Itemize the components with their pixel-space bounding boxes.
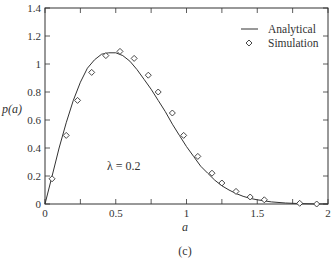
simulation-markers (49, 48, 320, 207)
simulation-point (314, 201, 320, 207)
simulation-point (89, 69, 95, 75)
legend-label-analytical: Analytical (268, 23, 316, 36)
simulation-point (145, 72, 151, 78)
x-tick-label: 1 (184, 207, 190, 219)
analytical-curve (45, 53, 328, 204)
lambda-annotation: λ = 0.2 (107, 159, 141, 173)
simulation-point (261, 197, 267, 203)
legend: Analytical Simulation (241, 23, 319, 49)
simulation-point (155, 89, 161, 95)
legend-label-simulation: Simulation (268, 37, 319, 49)
simulation-point (49, 176, 55, 182)
y-axis-label: p(a) (1, 102, 22, 116)
y-tick-label: 0.6 (27, 114, 41, 126)
simulation-point (169, 110, 175, 116)
x-tick-label: 0 (42, 207, 48, 219)
x-tick-label: 1.5 (250, 207, 264, 219)
simulation-point (297, 200, 303, 206)
x-tick-label: 2 (325, 207, 331, 219)
simulation-point (75, 97, 81, 103)
y-tick-label: 0 (36, 198, 42, 210)
simulation-point (63, 132, 69, 138)
simulation-point (219, 180, 225, 186)
simulation-point (131, 55, 137, 61)
chart: 00.511.52 00.20.40.60.811.21.4 Analytica… (0, 0, 334, 259)
y-tick-label: 1 (36, 58, 42, 70)
x-tick-label: 0.5 (109, 207, 123, 219)
y-tick-label: 1.4 (27, 2, 41, 14)
y-tick-label: 0.8 (27, 86, 41, 98)
simulation-point (233, 188, 239, 194)
x-axis-label: a (182, 220, 188, 234)
y-tick-label: 0.2 (27, 170, 41, 182)
y-tick-label: 0.4 (27, 142, 41, 154)
figure-caption: (c) (178, 244, 191, 258)
simulation-point (181, 132, 187, 138)
legend-diamond-icon (246, 40, 252, 46)
y-tick-label: 1.2 (27, 30, 41, 42)
